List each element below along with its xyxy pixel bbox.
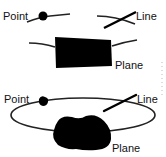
line-label: Line xyxy=(137,93,158,105)
plane-label: Plane xyxy=(112,142,140,154)
point-dot xyxy=(39,12,48,21)
orbit-arc-mid-left xyxy=(29,43,55,47)
diagram-bottom: Point Line Plane xyxy=(4,93,158,154)
plane-rectangle xyxy=(55,37,112,68)
diagram-top: Point Line Plane xyxy=(3,10,157,71)
plane-blob xyxy=(53,115,111,150)
line-label: Line xyxy=(136,10,157,22)
point-label: Point xyxy=(3,10,28,22)
plane-label: Plane xyxy=(115,59,143,71)
point-label: Point xyxy=(4,93,29,105)
geometry-diagrams: Point Line Plane Point Line Plane xyxy=(0,0,166,157)
line-segment xyxy=(104,12,136,28)
orbit-arc-top-center-left xyxy=(50,14,70,16)
point-blob xyxy=(39,96,48,106)
orbit-arc-mid-right xyxy=(112,40,137,46)
